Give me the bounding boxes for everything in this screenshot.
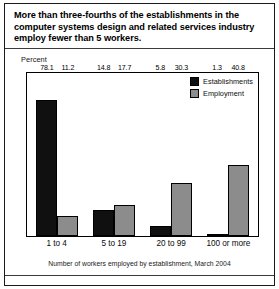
bar-wrapper: 5.8: [150, 73, 171, 236]
chart-title: More than three-fourths of the establish…: [14, 10, 266, 45]
figure-frame: More than three-fourths of the establish…: [4, 3, 275, 286]
y-axis-caption: Percent: [21, 55, 47, 64]
bar-wrapper: 17.7: [114, 73, 135, 236]
bar-wrapper: 14.8: [93, 73, 114, 236]
bar-value-label: 14.8: [97, 64, 110, 72]
x-axis-tick-labels: 1 to 4 5 to 19 20 to 99 100 or more: [26, 239, 259, 248]
bar-value-label: 11.2: [61, 64, 74, 72]
bar-establishments[interactable]: [207, 234, 228, 236]
bar-value-label: 1.3: [212, 64, 222, 72]
bar-value-label: 40.8: [231, 64, 244, 72]
bar-employment[interactable]: [57, 216, 78, 236]
bar-group: 78.1 11.2: [29, 73, 86, 236]
bar-employment[interactable]: [171, 183, 192, 236]
bar-wrapper: 1.3: [207, 73, 228, 236]
footer-divider: [5, 275, 274, 276]
bar-group: 5.8 30.3: [143, 73, 200, 236]
x-tick-label: 1 to 4: [28, 239, 85, 248]
bar-series-container: 78.1 11.2 14.8 17.7: [27, 73, 258, 236]
title-divider: [5, 48, 274, 49]
bar-establishments[interactable]: [150, 226, 171, 236]
bar-employment[interactable]: [228, 165, 249, 236]
bar-wrapper: 30.3: [171, 73, 192, 236]
bar-wrapper: 40.8: [228, 73, 249, 236]
x-axis-caption: Number of workers employed by establishm…: [5, 260, 274, 267]
x-tick-label: 100 or more: [200, 239, 257, 248]
bar-establishments[interactable]: [36, 100, 57, 236]
plot-area: Establishments Employment 78.1 11.2: [26, 72, 259, 237]
bar-wrapper: 11.2: [57, 73, 78, 236]
bar-establishments[interactable]: [93, 210, 114, 236]
bar-wrapper: 78.1: [36, 73, 57, 236]
bar-employment[interactable]: [114, 205, 135, 236]
bar-group: 14.8 17.7: [86, 73, 143, 236]
bar-value-label: 5.8: [156, 64, 166, 72]
bar-value-label: 78.1: [40, 64, 53, 72]
bar-group: 1.3 40.8: [199, 73, 256, 236]
x-tick-label: 5 to 19: [85, 239, 142, 248]
x-tick-label: 20 to 99: [143, 239, 200, 248]
bar-value-label: 17.7: [118, 64, 131, 72]
bar-value-label: 30.3: [175, 64, 188, 72]
